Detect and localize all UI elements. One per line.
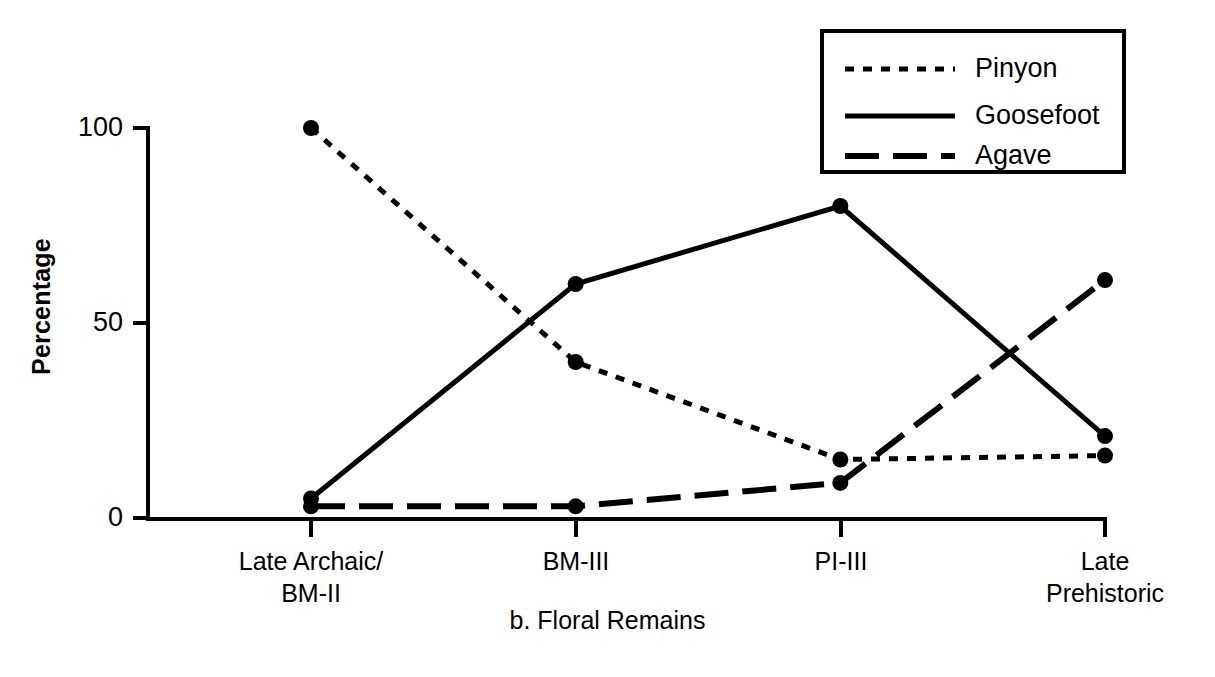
data-point-agave-1 [568,498,584,514]
data-point-goosefoot-1 [568,276,584,292]
legend-label-agave: Agave [975,140,1052,171]
legend-label-pinyon: Pinyon [975,53,1058,84]
axes-group [133,126,1107,537]
x-category-label-2: PI-III [721,545,961,577]
data-point-agave-3 [1097,272,1113,288]
legend-label-goosefoot: Goosefoot [975,100,1100,131]
chart-caption: b. Floral Remains [0,606,1215,635]
y-tick-label-0: 0 [28,502,123,533]
data-point-pinyon-0 [303,120,319,136]
y-axis-title: Percentage [27,227,56,387]
x-category-label-0: Late Archaic/ BM-II [191,545,431,609]
data-point-agave-2 [832,475,848,491]
series-agave [303,272,1113,514]
x-category-label-1: BM-III [456,545,696,577]
data-point-agave-0 [303,498,319,514]
data-point-pinyon-2 [832,452,848,468]
data-point-pinyon-3 [1097,448,1113,464]
x-category-label-3: Late Prehistoric [985,545,1215,609]
data-point-goosefoot-2 [832,198,848,214]
series-goosefoot [303,198,1113,507]
y-tick-label-100: 100 [28,112,123,143]
data-point-goosefoot-3 [1097,428,1113,444]
figure-floral-remains: 100 50 0 Percentage Late Archaic/ BM-II … [0,0,1215,677]
data-point-pinyon-1 [568,354,584,370]
